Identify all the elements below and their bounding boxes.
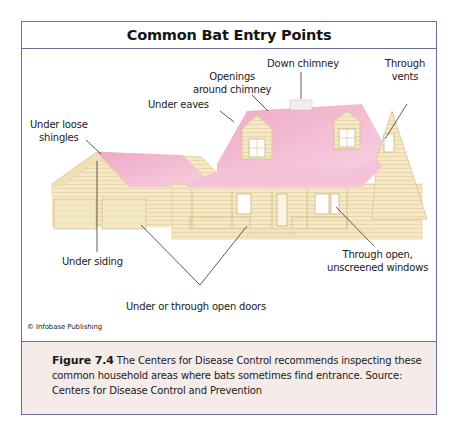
front-window-right [315, 194, 329, 214]
garage-door-left [54, 199, 96, 229]
label-text: vents [385, 71, 425, 84]
house-illustration: Down chimney Through vents Openings arou… [22, 49, 436, 341]
label-text: unscreened windows [327, 262, 428, 275]
label-under-eaves: Under eaves [148, 99, 209, 112]
garage-door-right [102, 199, 146, 229]
label-text: Through [385, 58, 425, 71]
title-bar: Common Bat Entry Points [22, 22, 436, 49]
caption-label: Figure 7.4 [52, 354, 114, 367]
label-text: Under eaves [148, 99, 209, 110]
label-open-windows: Through open, unscreened windows [327, 249, 428, 274]
label-open-doors: Under or through open doors [126, 301, 266, 314]
front-door [277, 194, 287, 226]
label-under-siding: Under siding [62, 256, 123, 269]
label-text: shingles [30, 132, 88, 145]
label-text: Through open, [327, 249, 428, 262]
figure-frame: Common Bat Entry Points [21, 21, 437, 415]
label-loose-shingles: Under loose shingles [30, 119, 88, 144]
caption-box: Figure 7.4 The Centers for Disease Contr… [22, 341, 436, 414]
label-text: around chimney [193, 84, 271, 97]
figure-title: Common Bat Entry Points [127, 27, 332, 43]
label-down-chimney: Down chimney [267, 58, 339, 71]
label-text: Under siding [62, 256, 123, 267]
label-text: Under loose [30, 119, 88, 132]
figure-caption: Figure 7.4 The Centers for Disease Contr… [52, 353, 422, 398]
attic-vent [384, 134, 394, 152]
front-window-left [237, 194, 251, 214]
label-text: Openings [193, 71, 271, 84]
label-through-vents: Through vents [385, 58, 425, 83]
label-openings-chimney: Openings around chimney [193, 71, 271, 96]
label-text: Down chimney [267, 58, 339, 69]
side-window [331, 194, 339, 214]
copyright-credit: © Infobase Publishing [27, 323, 102, 331]
chimney [290, 100, 312, 110]
label-text: Under or through open doors [126, 301, 266, 312]
